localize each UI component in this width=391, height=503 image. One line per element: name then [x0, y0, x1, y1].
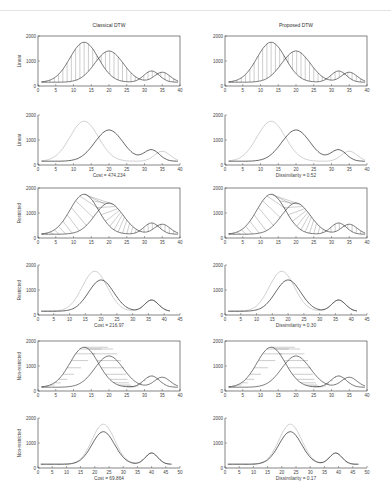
- svg-text:35: 35: [160, 240, 166, 245]
- panel-r2c2: 0510152025303540010002000Dissimilarity =…: [213, 113, 370, 179]
- svg-text:1000: 1000: [213, 59, 224, 64]
- svg-text:0: 0: [37, 167, 40, 172]
- panel-r5c1: 0510152025303540010002000Non-restricted: [17, 339, 183, 399]
- svg-text:5: 5: [51, 470, 54, 475]
- svg-text:25: 25: [106, 470, 112, 475]
- svg-text:25: 25: [293, 470, 299, 475]
- panel-r3c1: 0510152025303540010002000Restricted: [17, 186, 183, 246]
- svg-text:35: 35: [146, 317, 152, 322]
- panel-r6c2: 05101520253035404550010002000Dissimilari…: [213, 416, 370, 482]
- svg-text:20: 20: [279, 470, 285, 475]
- svg-text:10: 10: [251, 470, 257, 475]
- svg-text:15: 15: [89, 393, 95, 398]
- svg-text:35: 35: [322, 470, 328, 475]
- svg-text:35: 35: [333, 317, 339, 322]
- svg-text:0: 0: [224, 240, 227, 245]
- svg-text:15: 15: [89, 240, 95, 245]
- svg-text:30: 30: [142, 167, 148, 172]
- panel-r2c1: 0510152025303540010002000LinearCost = 47…: [17, 113, 183, 179]
- svg-text:Cost = 69.864: Cost = 69.864: [94, 476, 124, 481]
- svg-text:2000: 2000: [213, 339, 224, 344]
- panel-r3c2: 0510152025303540010002000: [213, 186, 370, 246]
- svg-text:40: 40: [364, 393, 370, 398]
- svg-text:Linear: Linear: [17, 54, 22, 67]
- svg-text:15: 15: [276, 167, 282, 172]
- svg-text:1000: 1000: [26, 441, 37, 446]
- svg-text:2000: 2000: [213, 416, 224, 421]
- svg-text:20: 20: [293, 88, 299, 93]
- svg-text:20: 20: [293, 393, 299, 398]
- panel-r4c1: 051015202530354045010002000RestrictedCos…: [17, 263, 183, 329]
- svg-text:30: 30: [308, 470, 314, 475]
- svg-text:30: 30: [329, 240, 335, 245]
- svg-text:15: 15: [276, 393, 282, 398]
- svg-text:1000: 1000: [213, 211, 224, 216]
- svg-text:40: 40: [162, 317, 168, 322]
- svg-text:Restricted: Restricted: [17, 279, 22, 300]
- svg-text:0: 0: [224, 470, 227, 475]
- svg-text:10: 10: [71, 167, 77, 172]
- svg-text:25: 25: [124, 167, 130, 172]
- svg-text:Cost = 216.97: Cost = 216.97: [94, 323, 124, 328]
- svg-text:10: 10: [71, 88, 77, 93]
- svg-text:Dissimilarity = 0.30: Dissimilarity = 0.30: [276, 323, 317, 328]
- svg-text:10: 10: [71, 393, 77, 398]
- svg-text:25: 25: [124, 393, 130, 398]
- svg-text:2000: 2000: [26, 416, 37, 421]
- svg-text:0: 0: [37, 88, 40, 93]
- svg-text:1000: 1000: [26, 138, 37, 143]
- panel-r1c2: 0510152025303540010002000: [213, 34, 370, 94]
- svg-text:2000: 2000: [213, 263, 224, 268]
- svg-text:50: 50: [177, 470, 183, 475]
- svg-text:25: 25: [124, 88, 130, 93]
- svg-text:1000: 1000: [26, 59, 37, 64]
- svg-text:2000: 2000: [26, 263, 37, 268]
- svg-text:10: 10: [258, 88, 264, 93]
- panel-r4c2: 051015202530354045010002000Dissimilarity…: [213, 263, 370, 329]
- svg-text:Dissimilarity = 0.52: Dissimilarity = 0.52: [276, 173, 317, 178]
- svg-text:2000: 2000: [26, 113, 37, 118]
- svg-text:1000: 1000: [213, 441, 224, 446]
- svg-text:15: 15: [83, 317, 89, 322]
- svg-text:5: 5: [241, 88, 244, 93]
- svg-text:15: 15: [89, 88, 95, 93]
- svg-text:35: 35: [347, 88, 353, 93]
- svg-text:10: 10: [64, 470, 70, 475]
- svg-text:5: 5: [54, 393, 57, 398]
- svg-text:35: 35: [135, 470, 141, 475]
- svg-text:25: 25: [311, 393, 317, 398]
- svg-text:0: 0: [37, 317, 40, 322]
- panel-r1c1: 0510152025303540010002000Linear: [17, 34, 183, 94]
- svg-text:40: 40: [364, 167, 370, 172]
- svg-text:10: 10: [67, 317, 73, 322]
- svg-text:40: 40: [177, 240, 183, 245]
- svg-text:20: 20: [92, 470, 98, 475]
- svg-text:5: 5: [241, 240, 244, 245]
- svg-text:15: 15: [265, 470, 271, 475]
- svg-text:45: 45: [364, 317, 370, 322]
- svg-text:Restricted: Restricted: [17, 202, 22, 223]
- svg-text:40: 40: [177, 167, 183, 172]
- svg-text:35: 35: [160, 393, 166, 398]
- panel-r6c1: 05101520253035404550010002000Non-restric…: [17, 416, 183, 482]
- svg-text:Non-restricted: Non-restricted: [17, 428, 22, 457]
- svg-text:30: 30: [121, 470, 127, 475]
- svg-text:Non-restricted: Non-restricted: [17, 351, 22, 380]
- svg-text:25: 25: [124, 240, 130, 245]
- svg-text:30: 30: [130, 317, 136, 322]
- svg-text:0: 0: [37, 470, 40, 475]
- svg-text:30: 30: [142, 393, 148, 398]
- svg-text:15: 15: [270, 317, 276, 322]
- svg-text:5: 5: [241, 167, 244, 172]
- svg-text:10: 10: [71, 240, 77, 245]
- svg-text:30: 30: [317, 317, 323, 322]
- svg-text:2000: 2000: [213, 34, 224, 39]
- svg-text:20: 20: [106, 167, 112, 172]
- svg-text:Cost = 474.234: Cost = 474.234: [93, 173, 126, 178]
- svg-text:40: 40: [364, 240, 370, 245]
- figure-panels: 0510152025303540010002000Linear051015202…: [0, 0, 391, 503]
- svg-text:1000: 1000: [213, 364, 224, 369]
- svg-text:1000: 1000: [26, 364, 37, 369]
- svg-text:5: 5: [240, 317, 243, 322]
- svg-text:35: 35: [347, 393, 353, 398]
